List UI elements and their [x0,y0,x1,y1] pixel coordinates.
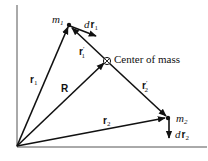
label-r1: r1 [30,74,38,87]
vector-r2 [17,118,165,146]
center-of-mass-marker [103,57,110,64]
label-R: R [61,83,69,94]
label-r2-prime: r′2 [142,79,148,94]
label-m1: m1 [52,13,63,27]
center-of-mass-diagram: m1 dr1 r′1 Center of mass r1 R r′2 r2 m2… [0,0,208,161]
label-r2: r2 [103,115,111,128]
vector-r2-prime [108,62,166,116]
label-dr1: dr1 [84,18,98,32]
label-dr2: dr2 [175,128,189,142]
mass-point-m1 [67,23,71,27]
mass-point-m2 [166,116,170,120]
label-center-of-mass: Center of mass [114,53,180,65]
label-m2: m2 [176,112,188,126]
label-r1-prime: r′1 [79,45,85,60]
